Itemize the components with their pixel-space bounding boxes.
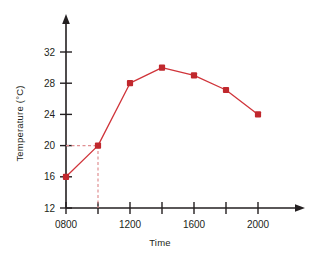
data-series-line — [66, 68, 258, 177]
data-point-marker — [95, 143, 101, 149]
x-axis — [66, 204, 305, 212]
y-tick-label: 20 — [44, 140, 56, 151]
data-point-marker — [159, 65, 165, 71]
y-tick-label: 28 — [44, 78, 56, 89]
y-tick-label: 24 — [44, 109, 56, 120]
x-tick-label: 1600 — [183, 219, 206, 230]
data-point-marker — [63, 174, 69, 180]
y-tick-label: 12 — [44, 203, 56, 214]
data-point-marker — [127, 80, 133, 86]
data-point-marker — [191, 72, 197, 78]
y-tick-label: 16 — [44, 171, 56, 182]
y-axis-title: Temperature (°C) — [14, 69, 25, 179]
y-axis-arrowhead — [62, 14, 70, 24]
data-point-marker — [223, 87, 229, 93]
x-axis-tick-labels: 0800 1200 1600 2000 — [55, 219, 270, 230]
x-axis-title: Time — [60, 237, 260, 248]
chart-plot-area: 12 16 20 24 28 32 0800 1200 1600 2000 — [0, 0, 323, 263]
y-tick-label: 32 — [44, 47, 56, 58]
temperature-time-line-chart: 12 16 20 24 28 32 0800 1200 1600 2000 — [0, 0, 323, 263]
data-point-markers — [63, 65, 261, 180]
x-tick-label: 1200 — [119, 219, 142, 230]
x-tick-label: 0800 — [55, 219, 78, 230]
x-tick-label: 2000 — [247, 219, 270, 230]
data-point-marker — [255, 111, 261, 117]
x-axis-arrowhead — [295, 204, 305, 212]
y-axis-tick-labels: 12 16 20 24 28 32 — [44, 47, 56, 214]
